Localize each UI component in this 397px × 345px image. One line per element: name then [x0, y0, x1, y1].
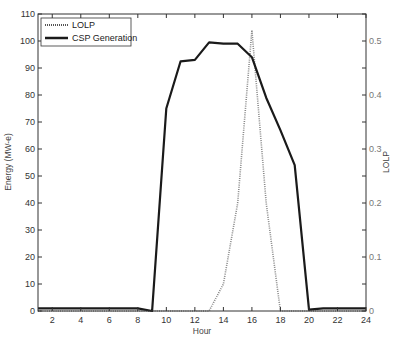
left-y-axis-label: Energy (MW-e) — [3, 133, 13, 191]
y-tick-label: 10 — [25, 279, 35, 289]
y-tick-label: 80 — [25, 90, 35, 100]
y-tick-label: 70 — [25, 117, 35, 127]
x-axis-label: Hour — [193, 326, 212, 336]
y2-tick-label: 0.4 — [369, 90, 382, 100]
x-tick-label: 8 — [135, 315, 140, 325]
series-layer — [38, 30, 366, 311]
y2-tick-label: 0 — [369, 306, 374, 316]
csp-generation-line — [38, 42, 366, 311]
legend-label-csp: CSP Generation — [72, 33, 137, 43]
legend: LOLP CSP Generation — [41, 18, 137, 46]
y-tick-label: 90 — [25, 63, 35, 73]
right-y-axis-label: LOLP — [381, 151, 391, 173]
y-tick-label: 100 — [20, 36, 35, 46]
plot-frame — [38, 14, 366, 311]
x-tick-label: 12 — [190, 315, 200, 325]
x-tick-label: 22 — [332, 315, 342, 325]
x-tick-label: 20 — [304, 315, 314, 325]
lolp-line — [38, 30, 366, 311]
x-tick-label: 24 — [361, 315, 371, 325]
legend-label-lolp: LOLP — [72, 20, 95, 30]
y-tick-label: 110 — [21, 9, 35, 19]
x-tick-label: 6 — [107, 315, 112, 325]
y-tick-label: 20 — [25, 252, 35, 262]
y-tick-label: 0 — [30, 306, 35, 316]
y-tick-label: 30 — [25, 225, 35, 235]
x-tick-label: 14 — [218, 315, 228, 325]
x-tick-label: 4 — [78, 315, 83, 325]
x-axis: 24681012141618202224 — [50, 14, 371, 325]
y-tick-label: 40 — [25, 198, 35, 208]
y-tick-label: 60 — [25, 144, 35, 154]
y2-tick-label: 0.5 — [369, 36, 382, 46]
right-y-axis: 00.10.20.30.40.5 — [362, 14, 382, 316]
x-tick-label: 18 — [275, 315, 285, 325]
x-tick-label: 2 — [50, 315, 55, 325]
dual-axis-line-chart: 24681012141618202224 0102030405060708090… — [0, 0, 397, 345]
y2-tick-label: 0.1 — [369, 252, 382, 262]
left-y-axis: 0102030405060708090100110 — [20, 9, 42, 316]
y2-tick-label: 0.3 — [369, 144, 382, 154]
x-tick-label: 10 — [161, 315, 171, 325]
y2-tick-label: 0.2 — [369, 198, 382, 208]
x-tick-label: 16 — [247, 315, 257, 325]
y-tick-label: 50 — [25, 171, 35, 181]
